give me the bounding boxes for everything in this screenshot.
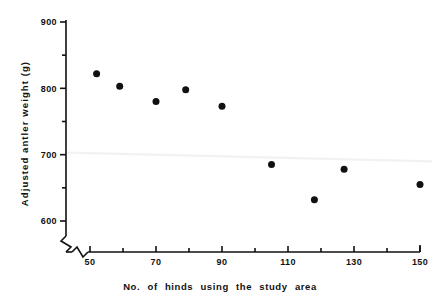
y-tick-label: 700 [41, 150, 57, 160]
x-tick-label: 150 [412, 257, 428, 267]
trend-line [68, 153, 432, 162]
y-tick-label: 900 [41, 17, 57, 27]
data-point [182, 86, 189, 93]
y-axis-break [61, 236, 71, 252]
x-tick-label: 110 [280, 257, 296, 267]
data-point [219, 103, 226, 110]
data-point [417, 181, 424, 188]
data-point [311, 196, 318, 203]
data-point [341, 166, 348, 173]
y-axis-title: Adjusted antler weight (g) [19, 34, 30, 234]
data-point [153, 98, 160, 105]
x-axis-break [72, 247, 88, 257]
data-point [116, 83, 123, 90]
x-axis-title: No. of hinds using the study area [0, 281, 440, 292]
y-tick-label: 600 [41, 216, 57, 226]
x-tick-label: 130 [346, 257, 362, 267]
plot-canvas: 600700800900507090110130150 [0, 0, 440, 303]
scatter-plot-figure: 600700800900507090110130150 Adjusted ant… [0, 0, 440, 303]
x-tick-label: 90 [217, 257, 228, 267]
data-point [93, 70, 100, 77]
y-tick-label: 800 [41, 84, 57, 94]
data-point [268, 161, 275, 168]
x-tick-label: 50 [85, 257, 96, 267]
x-tick-label: 70 [151, 257, 162, 267]
